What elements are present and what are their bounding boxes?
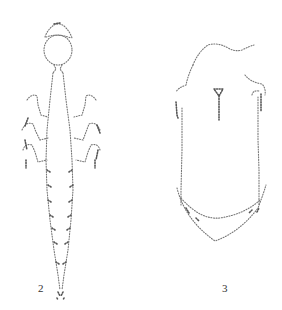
figure-2-larva <box>22 23 100 300</box>
figure-2-drawing <box>0 0 282 310</box>
figure-3-label: 3 <box>222 282 228 294</box>
figure-2-label: 2 <box>38 282 44 294</box>
figure-3-larva <box>176 44 266 241</box>
